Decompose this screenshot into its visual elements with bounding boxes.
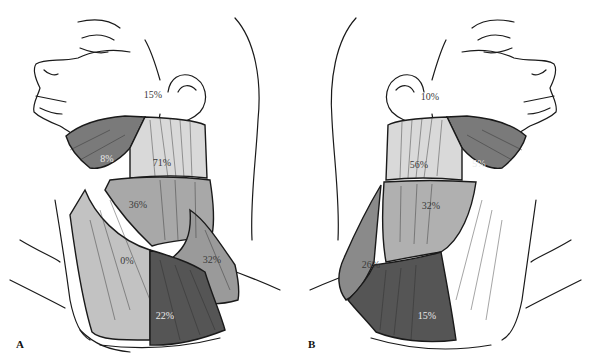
region-label-lower-jugular: 15%: [418, 310, 436, 321]
neck-illustration-right: [0, 0, 296, 358]
region-label-posterior-triangle: 0%: [120, 255, 133, 266]
region-label-mid-jugular: 32%: [422, 200, 440, 211]
zone-upper-jugular: [130, 117, 207, 178]
zone-upper-jugular: [386, 117, 462, 180]
neck-illustration-left: [296, 0, 593, 358]
region-label-posterior-triangle: 26%: [362, 259, 380, 270]
region-label-upper-jugular: 56%: [410, 159, 428, 170]
panel-letter-a: A: [16, 338, 24, 350]
region-label-submandibular: 5%: [472, 158, 485, 169]
region-label-upper-jugular: 71%: [153, 157, 171, 168]
panel-a: 15% 8% 71% 36% 0% 32% 22% A: [0, 0, 296, 358]
region-label-submandibular: 8%: [100, 153, 113, 164]
panel-letter-b: B: [308, 338, 315, 350]
region-label-parotid: 15%: [144, 89, 162, 100]
region-label-posterior-lower: 32%: [203, 254, 221, 265]
region-label-parotid: 10%: [421, 91, 439, 102]
region-label-lower-jugular: 22%: [156, 310, 174, 321]
zone-mid-jugular: [383, 181, 476, 263]
panel-b: 10% 5% 56% 32% 26% 15% B: [296, 0, 593, 358]
region-label-mid-jugular: 36%: [129, 199, 147, 210]
